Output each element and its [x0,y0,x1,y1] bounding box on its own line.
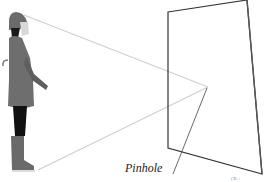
ray-top [24,15,208,87]
corner-caption: (Te : [231,176,240,181]
plane-right-edge-highlight [247,0,262,174]
image-plane [168,0,262,174]
pinhole-label: Pinhole [125,161,162,176]
pinhole-pointer [173,88,207,174]
pinhole-diagram [0,0,264,182]
person-figure [3,12,48,172]
ray-bottom [38,87,208,170]
